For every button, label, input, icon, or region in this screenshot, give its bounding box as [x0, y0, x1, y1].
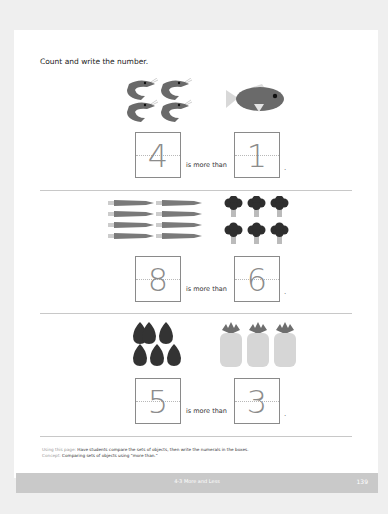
lesson-title: 4-3 More and Less [16, 478, 378, 484]
answer-box-right-2[interactable]: 6 [234, 256, 280, 302]
note-text: Comparing sets of objects using "more th… [62, 453, 158, 458]
page-number: 139 [357, 478, 368, 485]
fish-icon [222, 80, 292, 120]
avocado-group-icon [132, 322, 182, 368]
note-label: Concept: [42, 453, 61, 458]
shrimp-group-icon [125, 78, 195, 128]
answer-box-left-1[interactable]: 4 [135, 132, 181, 178]
section-divider [40, 190, 352, 191]
section-divider [40, 313, 352, 314]
period: . [284, 410, 286, 418]
section-divider [40, 436, 352, 437]
period: . [284, 164, 286, 172]
answer-box-right-1[interactable]: 1 [234, 132, 280, 178]
instruction-text: Count and write the number. [40, 57, 148, 66]
comparison-phrase: is more than [186, 161, 227, 169]
comparison-phrase: is more than [186, 285, 227, 293]
comparison-phrase: is more than [186, 407, 227, 415]
answer-box-left-3[interactable]: 5 [135, 378, 181, 424]
answer-box-left-2[interactable]: 8 [135, 256, 181, 302]
broccoli-group-icon [224, 196, 294, 250]
teacher-note-concept: Concept: Comparing sets of objects using… [42, 453, 158, 458]
teacher-note-using: Using this page: Have students compare t… [42, 447, 249, 452]
note-text: Have students compare the sets of object… [77, 447, 248, 452]
note-label: Using this page: [42, 447, 76, 452]
pineapple-group-icon [218, 322, 300, 368]
answer-box-right-3[interactable]: 3 [234, 378, 280, 424]
carrot-group-icon [108, 200, 208, 250]
period: . [284, 288, 286, 296]
footer-bar: 4-3 More and Less 139 [16, 473, 378, 493]
